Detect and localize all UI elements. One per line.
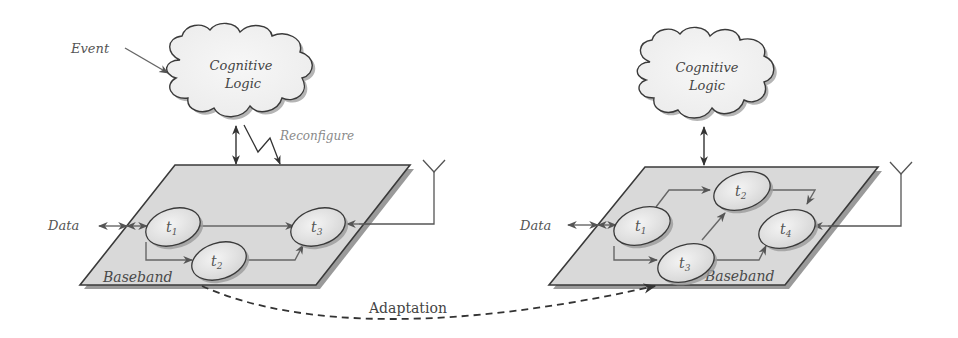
right-configuration: Cognitive Logic Baseband Data [519, 27, 912, 292]
data-label-left: Data [47, 218, 79, 233]
cloud-label-line2: Logic [688, 78, 726, 93]
cloud-label-line2: Logic [224, 76, 262, 91]
event-arrow [125, 48, 168, 73]
baseband-label-left: Baseband [102, 269, 172, 285]
cloud-label-line1: Cognitive [209, 58, 272, 73]
left-configuration: Event Cognitive Logic Reconfigure Baseba… [47, 23, 445, 289]
reconfigure-label: Reconfigure [279, 129, 354, 143]
cognitive-logic-cloud-right: Cognitive Logic [637, 27, 776, 121]
cognitive-radio-adaptation-diagram: Event Cognitive Logic Reconfigure Baseba… [0, 0, 958, 338]
cloud-label-line1: Cognitive [675, 60, 738, 75]
reconfigure-lightning-arrow [244, 125, 280, 164]
data-label-right: Data [519, 218, 551, 233]
baseband-label-right: Baseband [704, 268, 774, 284]
event-label: Event [70, 41, 110, 56]
adaptation-label: Adaptation [368, 300, 447, 316]
cognitive-logic-cloud-left: Cognitive Logic [167, 23, 316, 119]
